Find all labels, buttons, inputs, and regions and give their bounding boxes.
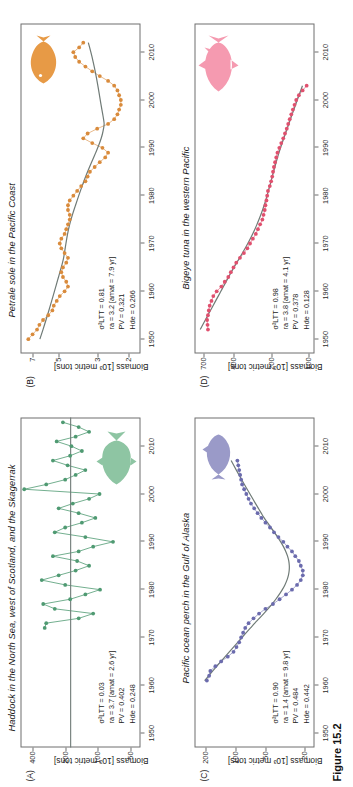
panel-C-y-tick-label: 50 xyxy=(260,751,269,777)
panel-B-stat-sigma: σ²LTT = 0.81 xyxy=(96,256,106,329)
panel-B-x-tick-label: 1980 xyxy=(146,187,155,203)
panel-B-x-tick-label: 1990 xyxy=(146,139,155,155)
panel-C-x-tick-label: 1980 xyxy=(320,581,329,597)
panel-C-y-tick xyxy=(205,747,206,751)
panel-C-y-tick xyxy=(304,747,305,751)
panel-D-y-tick-label: 200 xyxy=(266,357,275,383)
panel-B-x-tick-label: 2000 xyxy=(146,91,155,107)
panel-B-y-tick xyxy=(58,353,59,357)
panel-C-x-tick-label: 2010 xyxy=(320,437,329,453)
panel-A-y-tick xyxy=(65,747,66,751)
panel-D-x-tick-label: 1960 xyxy=(320,283,329,299)
panel-D-stat-pv: PV = 0.378 xyxy=(290,256,300,329)
panel-A-x-tick-label: 1970 xyxy=(146,629,155,645)
panel-D-x-tick-label: 1980 xyxy=(320,187,329,203)
panel-D-x-tick xyxy=(314,242,318,243)
haddock-silhouette xyxy=(96,431,136,487)
panel-B-y-tick-label: 7 xyxy=(28,357,37,383)
panel-B-x-tick xyxy=(140,338,144,339)
panel-B-y-tick-label: 5 xyxy=(53,357,62,383)
panel-A-y-tick xyxy=(130,747,131,751)
tuna-silhouette xyxy=(198,35,238,97)
panel-A-x-tick-label: 1960 xyxy=(146,677,155,693)
panel-B-y-tick xyxy=(32,353,33,357)
panel-A-y-tick-label: 200 xyxy=(60,751,69,777)
panel-A-stats: σ²LTT = 0.03 ra = 3.7 [amat = 2.6 yr] PV… xyxy=(96,650,137,723)
panel-A-x-tick xyxy=(140,732,144,733)
panel-A-stat-pv: PV = 0.402 xyxy=(116,650,126,723)
panel-A-x-tick-label: 1990 xyxy=(146,533,155,549)
panel-D-x-tick xyxy=(314,99,318,100)
panel-C-y-tick-label: 20 xyxy=(300,751,309,777)
panel-A-y-tick xyxy=(32,747,33,751)
panel-B-stats: σ²LTT = 0.81 ra = 3.2 [amat = 7.9 yr] PV… xyxy=(96,256,137,329)
panel-B-x-tick xyxy=(140,242,144,243)
panel-C-title: Pacific ocean perch in the Gulf of Alask… xyxy=(180,512,190,683)
panel-C-x-tick xyxy=(314,636,318,637)
panel-A-stat-h: Hde = 0.248 xyxy=(127,650,137,723)
panel-D-y-tick xyxy=(271,353,272,357)
panel-B-y-tick-label: 2 xyxy=(123,357,132,383)
panel-A-x-tick xyxy=(140,636,144,637)
perch-silhouette xyxy=(200,429,234,479)
panel-B-x-tick xyxy=(140,99,144,100)
panel-C-stat-ra: ra = 1.4 [amat = 9.8 yr] xyxy=(280,650,290,723)
panel-D-stat-h: Hde = 0.128 xyxy=(301,256,311,329)
panel-A-y-tick xyxy=(97,747,98,751)
panel-D-y-tick xyxy=(308,353,309,357)
panel-C-y-tick xyxy=(235,747,236,751)
panel-D-stat-ra: ra = 3.8 [amat = 4.1 yr] xyxy=(280,256,290,329)
panel-A-y-tick-label: 400 xyxy=(28,751,37,777)
panel-B-y-tick xyxy=(128,353,129,357)
panel-C-x-tick-label: 1990 xyxy=(320,533,329,549)
panel-C-y-tick-label: 200 xyxy=(201,751,210,777)
panel-B-x-tick xyxy=(140,290,144,291)
panel-A-x-tick xyxy=(140,540,144,541)
panel-A-y-tick-label: 50 xyxy=(125,751,134,777)
figure-caption: Figure 15.2 xyxy=(330,723,342,781)
panel-A-stat-sigma: σ²LTT = 0.03 xyxy=(96,650,106,723)
panel-B-x-tick xyxy=(140,51,144,52)
figure-stage: Haddock in the North Sea, west of Scotla… xyxy=(0,0,353,787)
panel-B-x-tick xyxy=(140,146,144,147)
panel-C-y-tick xyxy=(265,747,266,751)
panel-D-stats: σ²LTT = 0.98 ra = 3.8 [amat = 4.1 yr] PV… xyxy=(270,256,311,329)
panel-C-x-tick-label: 1970 xyxy=(320,629,329,645)
panel-A-x-tick-label: 1950 xyxy=(146,724,155,740)
panel-A-x-tick-label: 2000 xyxy=(146,485,155,501)
panel-D-x-tick-label: 1990 xyxy=(320,139,329,155)
panel-C-stats: σ²LTT = 0.90 ra = 1.4 [amat = 9.8 yr] PV… xyxy=(270,650,311,723)
panel-B-x-tick-label: 1950 xyxy=(146,330,155,346)
panel-D-x-tick xyxy=(314,338,318,339)
panel-A-stat-ra: ra = 3.7 [amat = 2.6 yr] xyxy=(106,650,116,723)
panel-B-stat-ra: ra = 3.2 [amat = 7.9 yr] xyxy=(106,256,116,329)
panel-D-title: Bigeye tuna in the western Pacific xyxy=(180,146,190,289)
panel-C-x-tick xyxy=(314,684,318,685)
panel-C-y-tick-label: 100 xyxy=(231,751,240,777)
panel-B-x-tick xyxy=(140,194,144,195)
panel-D-x-tick xyxy=(314,194,318,195)
panel-B-stat-pv: PV = 0.321 xyxy=(116,256,126,329)
panel-D-y-tick-label: 400 xyxy=(228,357,237,383)
panel-C-stat-h: Hde = 0.442 xyxy=(301,650,311,723)
panel-C-x-tick xyxy=(314,540,318,541)
panel-B-stat-h: Hde = 0.266 xyxy=(127,256,137,329)
panel-B-x-tick-label: 2010 xyxy=(146,43,155,59)
panel-B-x-tick-label: 1960 xyxy=(146,283,155,299)
panel-C-x-tick xyxy=(314,588,318,589)
panel-C-x-tick xyxy=(314,493,318,494)
panel-A-x-tick-label: 1980 xyxy=(146,581,155,597)
panel-C-x-tick-label: 1950 xyxy=(320,724,329,740)
panel-A-x-tick xyxy=(140,445,144,446)
panel-D-y-tick-label: 100 xyxy=(304,357,313,383)
panel-B-x-tick-label: 1970 xyxy=(146,235,155,251)
panel-D-y-tick xyxy=(233,353,234,357)
panel-A-x-tick xyxy=(140,588,144,589)
panel-C-x-tick-label: 1960 xyxy=(320,677,329,693)
panel-D-y-tick xyxy=(203,353,204,357)
panel-C-stat-pv: PV = 0.484 xyxy=(290,650,300,723)
panel-B-y-tick xyxy=(97,353,98,357)
panel-C-x-tick xyxy=(314,732,318,733)
panel-A-x-tick xyxy=(140,684,144,685)
panel-D-x-tick-label: 1970 xyxy=(320,235,329,251)
